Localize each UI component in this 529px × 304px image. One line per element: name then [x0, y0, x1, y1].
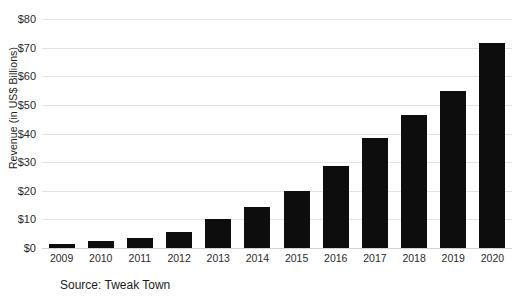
bar	[401, 115, 427, 248]
x-axis-tick-labels: 2009201020112012201320142015201620172018…	[42, 252, 512, 270]
bar-series	[42, 19, 512, 248]
source-attribution: Source: Tweak Town	[60, 278, 170, 292]
bar-slot	[395, 19, 434, 248]
bar-slot	[238, 19, 277, 248]
bar-slot	[434, 19, 473, 248]
y-axis-tick-label: $60	[0, 70, 36, 82]
x-axis-tick-label: 2015	[277, 252, 316, 264]
x-axis-tick-label: 2012	[160, 252, 199, 264]
x-axis-tick-label: 2014	[238, 252, 277, 264]
x-axis-tick-label: 2020	[473, 252, 512, 264]
bar	[362, 138, 388, 248]
y-axis-tick-label: $70	[0, 42, 36, 54]
y-axis-tick-label: $20	[0, 185, 36, 197]
bar-slot	[473, 19, 512, 248]
y-axis-tick-label: $40	[0, 128, 36, 140]
y-axis-tick-label: $80	[0, 13, 36, 25]
x-axis-tick-label: 2019	[434, 252, 473, 264]
y-axis-tick-label: $0	[0, 242, 36, 254]
y-axis-tick-label: $30	[0, 156, 36, 168]
y-axis-tick-label: $10	[0, 213, 36, 225]
bar-slot	[42, 19, 81, 248]
x-axis-tick-label: 2011	[120, 252, 159, 264]
bar	[88, 241, 114, 248]
bar	[244, 207, 270, 249]
bar	[49, 244, 75, 248]
x-axis-tick-label: 2013	[199, 252, 238, 264]
bar-slot	[120, 19, 159, 248]
bar-slot	[160, 19, 199, 248]
bar	[440, 91, 466, 248]
bar	[323, 166, 349, 248]
bar-slot	[316, 19, 355, 248]
gridline	[42, 248, 512, 249]
x-axis-tick-label: 2017	[355, 252, 394, 264]
x-axis-tick-label: 2016	[316, 252, 355, 264]
bar	[205, 219, 231, 248]
x-axis-tick-label: 2010	[81, 252, 120, 264]
bar	[284, 191, 310, 248]
bar	[479, 43, 505, 248]
bar-slot	[355, 19, 394, 248]
bar-slot	[277, 19, 316, 248]
bar	[166, 232, 192, 248]
y-axis-tick-label: $50	[0, 99, 36, 111]
x-axis-tick-label: 2009	[42, 252, 81, 264]
bar	[127, 238, 153, 248]
x-axis-tick-label: 2018	[395, 252, 434, 264]
chart-figure: Revenue (in US$ Billions) $0$10$20$30$40…	[0, 0, 529, 304]
bar-slot	[199, 19, 238, 248]
bar-slot	[81, 19, 120, 248]
